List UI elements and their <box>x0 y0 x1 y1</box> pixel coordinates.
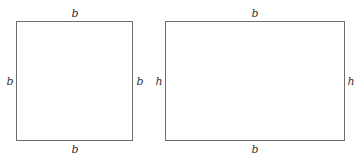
rectangle-left-label: h <box>155 76 162 87</box>
rectangle <box>165 21 345 141</box>
square-top-label: b <box>71 8 78 19</box>
rectangle-top-label: b <box>251 8 258 19</box>
rectangle-right-label: h <box>347 76 354 87</box>
rectangle-bottom-label: b <box>251 144 258 155</box>
square-left-label: b <box>6 76 13 87</box>
square-right-label: b <box>136 76 143 87</box>
square <box>16 21 133 141</box>
square-bottom-label: b <box>71 144 78 155</box>
